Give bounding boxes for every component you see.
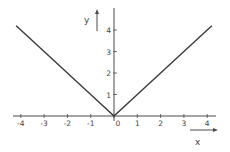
y-ticks: 1234 [106,26,117,100]
x-tick-label: -3 [40,119,48,128]
y-tick-label: 2 [106,69,111,78]
y-tick-label: 1 [106,91,111,100]
x-axis-label: x [195,137,201,147]
x-tick-label: 4 [205,119,210,128]
x-tick-label: -4 [17,119,25,128]
y-arrowhead-icon [95,9,99,14]
x-tick-label: 0 [116,119,121,128]
y-tick-label: 3 [106,48,111,57]
x-tick-label: -2 [64,119,72,128]
x-tick-label: 3 [182,119,187,128]
y-tick-label: 4 [106,26,111,35]
x-tick-label: 2 [158,119,163,128]
x-tick-label: 1 [135,119,140,128]
x-arrowhead-icon [213,128,218,132]
x-tick-label: -1 [87,119,95,128]
y-axis-label: y [84,15,90,25]
chart: -4-3-2-101234 1234 y x [0,0,230,152]
